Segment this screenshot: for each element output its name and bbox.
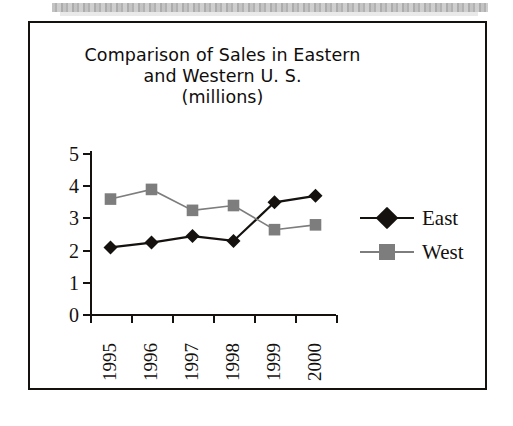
y-axis-tick-label: 0	[69, 305, 79, 325]
y-axis-tick	[83, 185, 90, 187]
data-point-east-1996	[145, 236, 159, 250]
x-axis-tick-label: 1999	[264, 343, 283, 381]
y-axis-tick	[83, 314, 90, 316]
x-axis-tick-label: 1995	[100, 343, 119, 381]
data-point-west-1997	[187, 205, 199, 217]
legend-square-icon	[379, 244, 395, 260]
chart-title-line-1: Comparison of Sales in Eastern	[30, 45, 415, 66]
y-axis-tick-label: 3	[69, 208, 79, 228]
legend-key-east	[360, 208, 414, 228]
data-point-west-1996	[146, 184, 158, 196]
x-axis-tick	[295, 315, 297, 323]
series-line-west	[111, 189, 316, 229]
y-axis-tick	[83, 282, 90, 284]
y-axis-tick	[83, 217, 90, 219]
plot-area: 012345 199519961997199819992000	[90, 154, 336, 315]
legend-label-east: East	[422, 208, 458, 229]
x-axis-tick-label: 1998	[223, 343, 242, 381]
legend-item-east[interactable]: East	[360, 201, 480, 235]
series-line-east	[111, 196, 316, 248]
chart-title: Comparison of Sales in Eastern and Weste…	[30, 45, 415, 108]
chart-legend: EastWest	[360, 201, 480, 269]
data-point-west-1998	[228, 200, 240, 212]
data-point-east-2000	[309, 189, 323, 203]
data-point-west-1999	[269, 224, 281, 236]
x-axis-tick-label: 1996	[141, 343, 160, 381]
y-axis-tick	[83, 153, 90, 155]
y-axis-tick-label: 5	[69, 144, 79, 164]
data-point-west-2000	[310, 219, 322, 231]
x-axis-tick	[254, 315, 256, 323]
chart-title-line-2: and Western U. S.	[30, 66, 415, 87]
x-axis-tick	[213, 315, 215, 323]
series-plot	[90, 154, 336, 315]
data-point-east-1997	[186, 229, 200, 243]
legend-key-west	[360, 242, 414, 262]
x-axis-tick	[131, 315, 133, 323]
x-axis-tick	[90, 315, 92, 323]
data-point-west-1995	[105, 193, 117, 205]
legend-item-west[interactable]: West	[360, 235, 480, 269]
x-axis-tick-label: 1997	[182, 343, 201, 381]
data-point-east-1995	[104, 240, 118, 254]
x-axis-tick	[336, 315, 338, 323]
x-axis-tick-label: 2000	[305, 343, 324, 381]
y-axis-tick	[83, 250, 90, 252]
y-axis-tick-label: 2	[69, 240, 79, 260]
scan-artifact-strip-secondary	[60, 12, 478, 16]
legend-diamond-icon	[376, 207, 399, 230]
y-axis-tick-label: 4	[69, 176, 79, 196]
chart-figure-frame: Comparison of Sales in Eastern and Weste…	[28, 21, 487, 390]
chart-title-line-3: (millions)	[30, 87, 415, 108]
legend-label-west: West	[422, 242, 463, 263]
y-axis-tick-label: 1	[69, 272, 79, 292]
scan-artifact-strip	[52, 3, 488, 12]
x-axis-tick	[172, 315, 174, 323]
